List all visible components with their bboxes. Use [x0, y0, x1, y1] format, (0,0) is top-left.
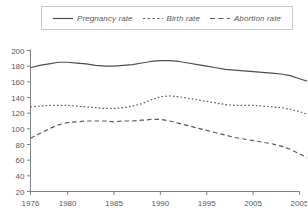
x-axis-tick-label: 2005: [291, 199, 307, 208]
y-axis-tick-label: 20: [16, 188, 25, 197]
x-axis-tick-label: 1980: [59, 199, 77, 208]
y-axis-tick-label: 80: [16, 141, 25, 150]
y-axis-tick-label: 100: [11, 125, 25, 134]
data-series-layer: [31, 61, 308, 159]
y-axis-tick-label: 160: [11, 78, 25, 87]
series-line-birth-rate: [31, 96, 308, 115]
y-axis-tick-label: 180: [11, 62, 25, 71]
x-axis-tick-label: 1985: [105, 199, 123, 208]
y-axis-tick-label: 200: [11, 47, 25, 56]
y-axis-tick-label: 140: [11, 94, 25, 103]
x-axis-tick-label: 1995: [198, 199, 216, 208]
y-axis-tick-label: 60: [16, 156, 25, 165]
x-axis-tick-label: 2005: [244, 199, 262, 208]
y-axis-tick-label: 40: [16, 172, 25, 181]
x-axis-tick-label: 1990: [151, 199, 169, 208]
series-line-abortion-rate: [31, 119, 308, 158]
x-axis: 1976198019851990199520052005: [22, 192, 307, 208]
plot-area: 20406080100120140160180200 1976198019851…: [0, 0, 307, 222]
line-chart: Pregnancy rate Birth rate Abortion rate …: [0, 0, 307, 222]
series-line-pregnancy-rate: [31, 61, 308, 82]
y-axis-tick-label: 120: [11, 109, 25, 118]
x-axis-tick-label: 1976: [22, 199, 40, 208]
y-axis: 20406080100120140160180200: [11, 47, 30, 197]
